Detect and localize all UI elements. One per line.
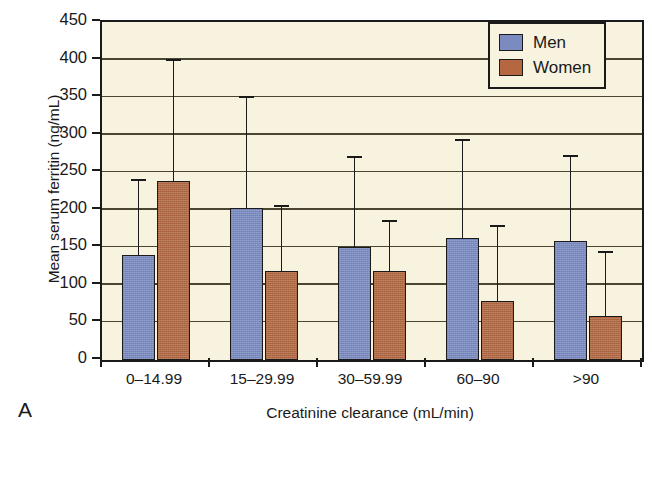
y-axis-tick-label: 300 [27, 124, 87, 141]
y-axis-tick-mark [92, 19, 100, 21]
y-axis-tick-mark [92, 57, 100, 59]
y-axis-tick-mark [92, 319, 100, 321]
bar-women[interactable] [157, 181, 190, 360]
panel-letter: A [18, 398, 32, 422]
error-bar-men [138, 180, 140, 255]
y-axis-tick-mark [92, 244, 100, 246]
y-axis-tick-mark [92, 132, 100, 134]
error-bar-women [605, 252, 607, 316]
bar-women[interactable] [373, 271, 406, 360]
y-axis-tick-label: 350 [27, 86, 87, 103]
x-axis-tick-mark [532, 358, 534, 367]
bar-women[interactable] [481, 301, 514, 360]
legend: Men Women [488, 22, 606, 89]
error-bar-men [570, 156, 572, 242]
x-axis-tick-mark [640, 358, 642, 367]
x-axis-tick-mark [100, 358, 102, 367]
x-axis-tick-mark [208, 358, 210, 367]
y-axis-tick-mark [92, 94, 100, 96]
bar-women[interactable] [265, 271, 298, 360]
error-bar-cap-women [598, 251, 613, 253]
y-axis-tick-label: 450 [27, 11, 87, 28]
bar-men[interactable] [554, 241, 587, 360]
error-bar-women [173, 60, 175, 182]
x-axis-tick-mark [424, 358, 426, 367]
y-axis-title: Mean serum ferritin (ng/mL) [45, 19, 63, 359]
y-axis-tick-mark [92, 282, 100, 284]
error-bar-cap-women [166, 59, 181, 61]
error-bar-men [462, 140, 464, 238]
bar-men[interactable] [446, 238, 479, 360]
x-axis-tick-label: >90 [516, 370, 652, 388]
x-axis-title: Creatinine clearance (mL/min) [100, 404, 640, 422]
legend-swatch-women-icon [499, 59, 523, 76]
y-axis-tick-label: 150 [27, 236, 87, 253]
y-axis-tick-mark [92, 357, 100, 359]
bar-group [102, 22, 210, 360]
legend-item-women[interactable]: Women [499, 55, 591, 80]
error-bar-cap-women [274, 205, 289, 207]
error-bar-women [497, 226, 499, 301]
error-bar-cap-women [490, 225, 505, 227]
error-bar-cap-men [131, 179, 146, 181]
bar-men[interactable] [230, 208, 263, 360]
legend-label-men: Men [533, 34, 566, 51]
legend-item-men[interactable]: Men [499, 30, 591, 55]
bar-women[interactable] [589, 316, 622, 360]
y-axis-tick-label: 100 [27, 274, 87, 291]
figure-panel-a: Mean serum ferritin (ng/mL) A Creatinine… [0, 0, 652, 477]
error-bar-women [389, 221, 391, 271]
error-bar-cap-men [563, 155, 578, 157]
legend-swatch-men-icon [499, 34, 523, 51]
legend-label-women: Women [533, 59, 591, 76]
y-axis-tick-label: 200 [27, 199, 87, 216]
error-bar-cap-women [382, 220, 397, 222]
error-bar-women [281, 206, 283, 271]
y-axis-tick-label: 400 [27, 49, 87, 66]
bar-group [210, 22, 318, 360]
y-axis-tick-label: 250 [27, 161, 87, 178]
y-axis-tick-mark [92, 169, 100, 171]
error-bar-cap-men [347, 156, 362, 158]
bar-men[interactable] [122, 255, 155, 360]
error-bar-men [246, 97, 248, 207]
x-axis-tick-mark [316, 358, 318, 367]
bar-men[interactable] [338, 247, 371, 360]
y-axis-tick-label: 50 [27, 311, 87, 328]
bar-group [318, 22, 426, 360]
y-axis-tick-mark [92, 207, 100, 209]
error-bar-cap-men [239, 96, 254, 98]
error-bar-cap-men [455, 139, 470, 141]
error-bar-men [354, 157, 356, 247]
y-axis-tick-label: 0 [27, 349, 87, 366]
